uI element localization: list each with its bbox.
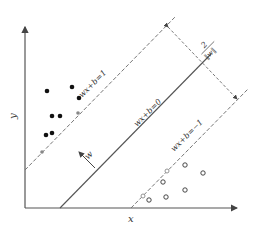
negative-class-points	[147, 163, 205, 202]
data-point	[45, 89, 50, 94]
x-axis-label: x	[128, 213, 134, 224]
data-point	[164, 195, 168, 199]
support-vector	[141, 194, 145, 198]
data-point	[161, 180, 165, 184]
data-point	[147, 198, 151, 202]
data-point	[50, 131, 55, 136]
svm-diagram: x y wx+b=1 wx+b=0 wx+b=−1 w 2 ‖w‖	[0, 0, 264, 237]
margin-numerator: 2	[199, 40, 210, 51]
support-vector	[40, 150, 44, 154]
data-point	[58, 114, 63, 119]
data-point	[183, 188, 187, 192]
margin-width-label: 2 ‖w‖	[195, 35, 221, 61]
data-point	[44, 133, 49, 138]
data-point	[183, 163, 187, 167]
hyperplane-label: wx+b=0	[132, 97, 163, 128]
upper-margin-label: wx+b=1	[77, 68, 108, 99]
data-point	[77, 96, 82, 101]
positive-class-points	[44, 85, 82, 138]
normal-vector-label: w	[82, 149, 95, 162]
data-point	[50, 114, 55, 119]
y-axis-label: y	[7, 113, 18, 120]
data-point	[201, 171, 205, 175]
support-vector	[165, 169, 169, 173]
lower-margin-label: wx+b=−1	[169, 118, 205, 154]
data-point	[70, 85, 75, 90]
support-vector	[76, 111, 80, 115]
